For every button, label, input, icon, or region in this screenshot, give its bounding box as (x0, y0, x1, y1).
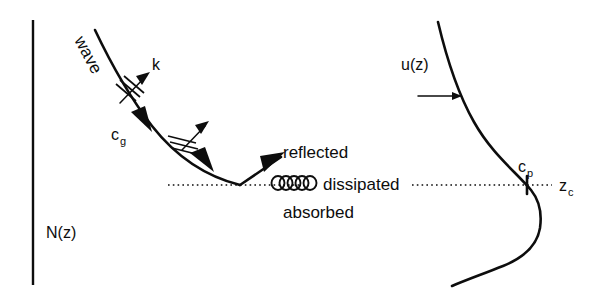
arrowhead-icon-reflected (260, 152, 285, 172)
u-profile-label: u(z) (401, 56, 429, 73)
wavevector-k-label: k (152, 56, 161, 73)
wave-ray-group: wave c g (70, 30, 285, 185)
arrowhead-icon-k (136, 72, 150, 85)
arrowhead-icon-cg-2 (190, 147, 214, 172)
arrowhead-icon-cg-1 (131, 106, 152, 132)
group-velocity-label: c (111, 126, 119, 143)
wavevector-k-group: k (116, 56, 161, 103)
n-profile-axis-label: N(z) (46, 224, 76, 241)
outcome-label-reflected: reflected (283, 143, 348, 162)
u-profile-curve (438, 22, 541, 286)
incident-ray-path (95, 30, 240, 185)
wave-critical-level-diagram: N(z) wave c g (0, 0, 599, 299)
dissipation-coil-icon (272, 176, 317, 190)
u-profile-group: u(z) c p z c (401, 22, 574, 286)
critical-level-label: z (559, 177, 567, 194)
outcome-label-absorbed: absorbed (283, 203, 354, 222)
critical-level-subscript: c (568, 186, 574, 198)
outcome-label-dissipated: dissipated (323, 175, 400, 194)
phase-speed-subscript: p (527, 167, 533, 179)
group-velocity-label-group: c g (111, 126, 126, 147)
flow-arrow-icon (418, 92, 462, 100)
n-profile-axis-group: N(z) (33, 20, 76, 285)
critical-level-label-group: z c (559, 177, 574, 198)
arrowhead-icon-wavevector-second (195, 121, 209, 134)
group-velocity-subscript: g (120, 135, 126, 147)
phase-speed-label: c (518, 158, 526, 175)
phase-speed-label-group: c p (518, 158, 533, 179)
figure-root: N(z) wave c g (0, 0, 599, 299)
